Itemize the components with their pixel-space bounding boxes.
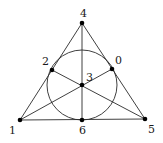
node-label-6: 6 <box>79 124 86 137</box>
node-1 <box>18 118 23 123</box>
node-6 <box>80 118 85 123</box>
node-label-5: 5 <box>148 123 155 136</box>
nodes-group <box>18 21 148 123</box>
node-label-4: 4 <box>80 7 87 20</box>
node-3 <box>80 83 85 88</box>
node-0 <box>110 67 115 72</box>
edges-group <box>20 23 145 120</box>
node-4 <box>80 21 85 26</box>
node-2 <box>50 68 55 73</box>
node-label-0: 0 <box>115 54 122 67</box>
node-label-1: 1 <box>9 124 16 137</box>
node-label-2: 2 <box>42 55 49 68</box>
node-5 <box>143 117 148 122</box>
node-label-3: 3 <box>86 71 93 84</box>
fano-plane-diagram: 0123456 <box>0 0 163 143</box>
